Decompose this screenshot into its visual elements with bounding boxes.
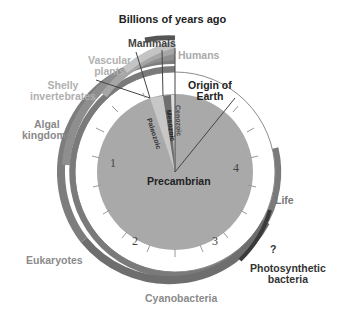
label-shelly-invertebrates: Shelly invertebrates	[30, 80, 96, 102]
label-algal-kingdoms: Algal kingdoms	[22, 119, 72, 141]
era-cenozoic: Cenozoic	[173, 105, 185, 136]
label-humans: Humans	[178, 50, 219, 61]
label-photosynthetic-bacteria: Photosynthetic bacteria	[250, 263, 326, 285]
label-question: ?	[270, 244, 276, 255]
label-cyanobacteria: Cyanobacteria	[145, 293, 217, 304]
dial-number-1: 1	[110, 158, 116, 169]
dial-number-4: 4	[233, 163, 239, 174]
label-life: Life	[275, 195, 294, 206]
label-vascular-plants: Vascular plants	[88, 55, 131, 77]
center-label: Precambrian	[147, 176, 207, 187]
dial-number-2: 2	[132, 236, 138, 247]
label-origin-of-earth: Origin of Earth	[188, 80, 232, 102]
label-eukaryotes: Eukaryotes	[26, 255, 83, 266]
label-mammals: Mammals	[128, 38, 176, 49]
chart-title: Billions of years ago	[0, 14, 345, 25]
dial-number-3: 3	[212, 236, 218, 247]
